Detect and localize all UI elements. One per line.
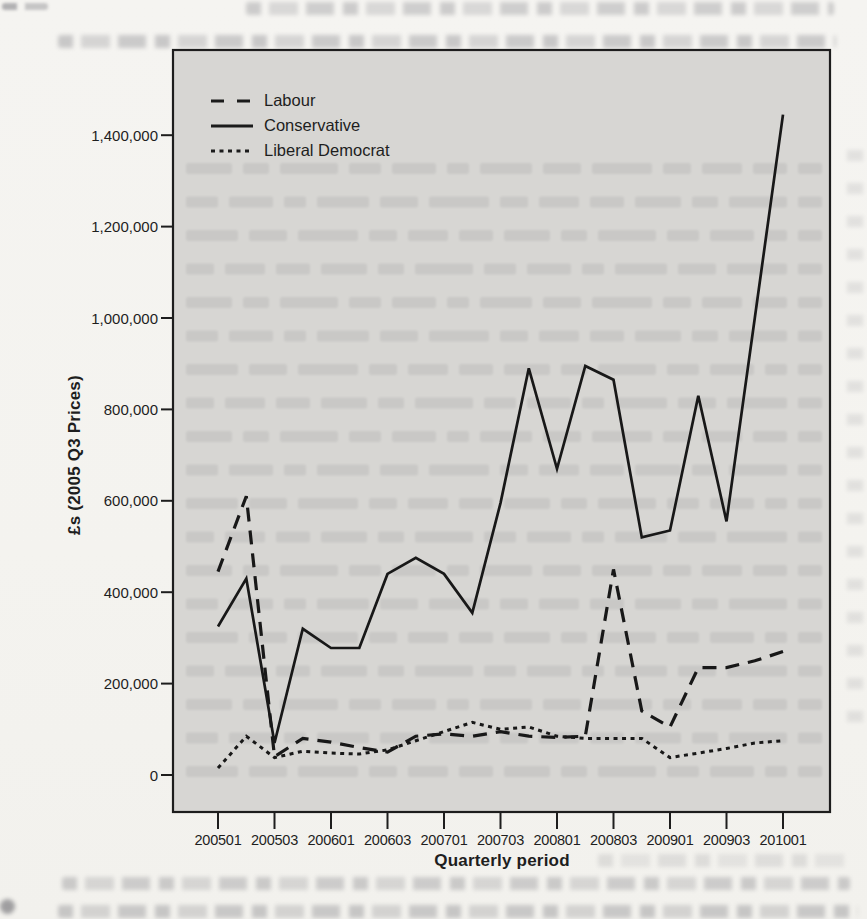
x-tick-label: 200603 [364, 832, 411, 848]
y-tick-label: 1,200,000 [91, 218, 158, 235]
scanned-book-page: 0200,000400,000600,000800,0001,000,0001,… [0, 0, 867, 919]
legend-item-liberal-democrat: Liberal Democrat [210, 138, 390, 163]
chart-canvas: 0200,000400,000600,000800,0001,000,0001,… [0, 0, 867, 919]
long-dash-line-sample-icon [210, 97, 254, 105]
y-tick-label: 200,000 [104, 675, 158, 692]
x-axis-title: Quarterly period [434, 851, 569, 871]
x-tick-label: 200601 [307, 832, 354, 848]
x-tick-label: 200803 [590, 832, 637, 848]
legend-item-conservative: Conservative [210, 113, 390, 138]
legend: Labour Conservative Liberal Democrat [210, 88, 390, 163]
x-tick-label: 201001 [759, 832, 806, 848]
x-tick-label: 200701 [420, 832, 467, 848]
y-tick-label: 1,400,000 [91, 127, 158, 144]
legend-label: Conservative [264, 116, 360, 135]
y-tick-label: 0 [150, 767, 158, 784]
legend-label: Labour [264, 91, 315, 110]
x-tick-label: 200903 [703, 832, 750, 848]
x-tick-label: 200501 [194, 832, 241, 848]
x-tick-label: 200801 [533, 832, 580, 848]
solid-line-sample-icon [210, 122, 254, 130]
y-axis-title: £s (2005 Q3 Prices) [65, 375, 85, 535]
y-tick-label: 600,000 [104, 492, 158, 509]
x-tick-label: 200703 [477, 832, 524, 848]
x-tick-label: 200901 [646, 832, 693, 848]
legend-item-labour: Labour [210, 88, 390, 113]
short-dash-line-sample-icon [210, 147, 254, 155]
y-tick-label: 400,000 [104, 584, 158, 601]
legend-label: Liberal Democrat [264, 141, 390, 160]
y-tick-label: 800,000 [104, 401, 158, 418]
y-tick-label: 1,000,000 [91, 310, 158, 327]
x-tick-label: 200503 [251, 832, 298, 848]
